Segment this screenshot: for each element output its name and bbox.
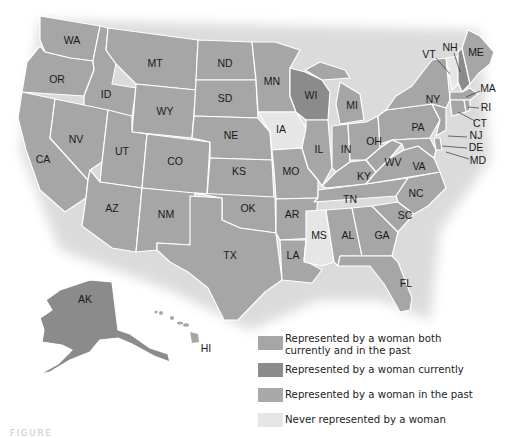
legend-label-never: Never represented by a woman xyxy=(285,414,446,426)
label-nj: NJ xyxy=(470,129,483,141)
label-wv: WV xyxy=(385,156,402,168)
label-la: LA xyxy=(287,249,300,261)
label-ak: AK xyxy=(78,293,92,305)
label-mo: MO xyxy=(283,165,300,177)
label-sd: SD xyxy=(218,92,233,104)
label-ma: MA xyxy=(480,82,496,94)
label-nv: NV xyxy=(69,133,84,145)
label-ny: NY xyxy=(426,93,441,105)
state-ak[interactable] xyxy=(40,280,170,374)
label-ks: KS xyxy=(232,165,246,177)
state-hi[interactable] xyxy=(155,311,200,344)
label-de: DE xyxy=(469,141,484,153)
label-ok: OK xyxy=(240,202,255,214)
label-mn: MN xyxy=(264,75,280,87)
label-il: IL xyxy=(315,143,324,155)
legend-swatch-current xyxy=(258,363,283,377)
label-or: OR xyxy=(49,73,65,85)
legend-item-never: Never represented by a woman xyxy=(254,410,511,434)
label-mi: MI xyxy=(346,99,358,111)
label-ar: AR xyxy=(285,208,300,220)
legend-label-line1: Represented by a woman both xyxy=(285,333,441,345)
label-ga: GA xyxy=(374,229,389,241)
label-az: AZ xyxy=(105,202,119,214)
legend-swatch-both xyxy=(258,336,283,350)
label-wa: WA xyxy=(64,34,81,46)
label-ct: CT xyxy=(473,117,488,129)
label-ky: KY xyxy=(357,170,371,182)
label-wy: WY xyxy=(157,105,174,117)
label-ms: MS xyxy=(311,229,327,241)
label-pa: PA xyxy=(411,121,424,133)
label-nh: NH xyxy=(442,41,457,53)
label-al: AL xyxy=(342,229,355,241)
label-nd: ND xyxy=(217,57,233,69)
label-va: VA xyxy=(412,160,425,172)
legend-label-line2: currently and in the past xyxy=(285,345,441,357)
label-wi: WI xyxy=(305,89,318,101)
label-ne: NE xyxy=(224,129,239,141)
label-mt: MT xyxy=(147,57,163,69)
label-ut: UT xyxy=(115,145,130,157)
state-nm[interactable] xyxy=(136,188,195,252)
legend-label-current: Represented by a woman currently xyxy=(285,364,464,376)
label-fl: FL xyxy=(400,277,412,289)
legend-item-both: Represented by a woman both currently an… xyxy=(254,332,511,362)
label-me: ME xyxy=(468,46,484,58)
label-in: IN xyxy=(341,143,352,155)
label-hi: HI xyxy=(201,342,212,354)
figure-caption: FIGURE xyxy=(10,428,52,438)
legend-swatch-past xyxy=(258,388,283,402)
label-sc: SC xyxy=(398,209,413,221)
label-tn: TN xyxy=(343,193,357,205)
label-nc: NC xyxy=(408,187,424,199)
label-oh: OH xyxy=(366,135,382,147)
legend-label-both: Represented by a woman both currently an… xyxy=(285,333,441,357)
legend-item-current: Represented by a woman currently xyxy=(254,362,511,386)
label-ri: RI xyxy=(481,101,492,113)
label-nm: NM xyxy=(158,208,174,220)
label-ia: IA xyxy=(276,123,286,135)
label-tx: TX xyxy=(223,249,236,261)
label-vt: VT xyxy=(422,48,436,60)
legend-label-past: Represented by a woman in the past xyxy=(285,389,473,401)
label-co: CO xyxy=(167,155,183,167)
legend-item-past: Represented by a woman in the past xyxy=(254,386,511,410)
legend-swatch-never xyxy=(258,413,283,427)
legend: Represented by a woman both currently an… xyxy=(254,332,511,434)
label-id: ID xyxy=(101,88,112,100)
label-ca: CA xyxy=(36,153,51,165)
label-md: MD xyxy=(470,154,487,166)
